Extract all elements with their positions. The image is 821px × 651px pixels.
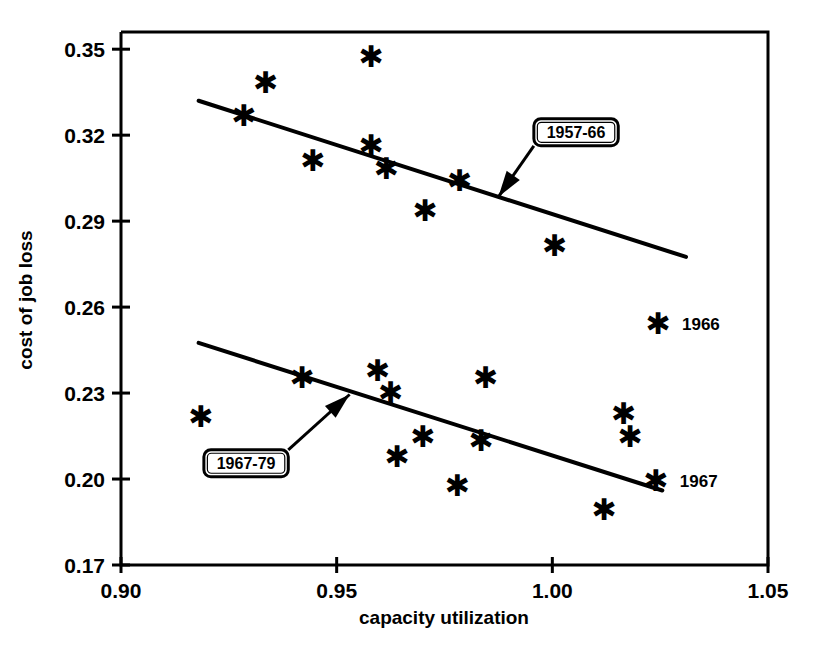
- y-tick-label: 0.23: [64, 382, 105, 405]
- y-axis-title: cost of job loss: [15, 230, 36, 369]
- data-point-marker: ✱: [300, 143, 325, 178]
- x-axis-tick-labels: 0.900.951.001.05: [101, 579, 789, 602]
- callout-label: 1967-79: [217, 455, 276, 472]
- x-tick-label: 1.05: [748, 579, 789, 602]
- data-point-marker: ✱: [290, 360, 315, 395]
- data-point-marker: ✱: [469, 423, 494, 458]
- y-tick-label: 0.35: [64, 38, 105, 61]
- data-point-marker: ✱: [378, 375, 403, 410]
- data-point-marker: ✱: [617, 419, 642, 454]
- scatter-plot-svg: 0.170.200.230.260.290.320.35 0.900.951.0…: [0, 0, 821, 651]
- y-tick-label: 0.32: [64, 124, 105, 147]
- fit-lines: [199, 101, 686, 491]
- y-axis-tick-labels: 0.170.200.230.260.290.320.35: [64, 38, 105, 577]
- x-axis-title: capacity utilization: [359, 607, 529, 628]
- data-point-marker: ✱: [410, 419, 435, 454]
- y-tick-label: 0.20: [64, 468, 105, 491]
- data-point-marker: ✱: [413, 193, 438, 228]
- endpoint-label-1967: 1967: [680, 472, 718, 491]
- data-point-marker: ✱: [645, 306, 670, 341]
- data-point-marker: ✱: [359, 39, 384, 74]
- data-point-marker: ✱: [384, 439, 409, 474]
- callout-1967-79: 1967-79: [204, 394, 350, 476]
- y-tick-label: 0.17: [64, 554, 105, 577]
- data-point-marker: ✱: [447, 163, 472, 198]
- endpoint-label-1966: 1966: [682, 315, 720, 334]
- callout-arrowhead: [498, 171, 519, 197]
- chart-figure: 0.170.200.230.260.290.320.35 0.900.951.0…: [0, 0, 821, 651]
- data-point-marker: ✱: [253, 65, 278, 100]
- data-point-marker: ✱: [592, 492, 617, 527]
- data-point-marker: ✱: [231, 98, 256, 133]
- data-point-marker: ✱: [643, 463, 668, 498]
- data-point-marker: ✱: [374, 151, 399, 186]
- data-point-marker: ✱: [188, 399, 213, 434]
- x-tick-label: 0.95: [316, 579, 357, 602]
- x-tick-label: 0.90: [101, 579, 142, 602]
- data-point-marker: ✱: [542, 228, 567, 263]
- x-tick-label: 1.00: [532, 579, 573, 602]
- y-tick-label: 0.26: [64, 296, 105, 319]
- endpoint-labels: 19661967: [680, 315, 720, 492]
- callout-1957-66: 1957-66: [498, 119, 618, 197]
- callout-label: 1957-66: [547, 124, 606, 141]
- y-tick-label: 0.29: [64, 210, 105, 233]
- data-point-marker: ✱: [445, 468, 470, 503]
- data-point-marker: ✱: [473, 360, 498, 395]
